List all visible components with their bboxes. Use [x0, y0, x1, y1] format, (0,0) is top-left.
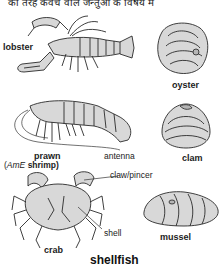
clam-label: clam	[182, 153, 203, 163]
shell-annotation: shell	[104, 228, 121, 238]
page-title: shellfish	[90, 253, 139, 267]
prawn-illustration	[8, 96, 143, 151]
oyster-label: oyster	[172, 80, 199, 90]
mussel-label: mussel	[160, 232, 191, 242]
lobster-label: lobster	[3, 42, 33, 52]
crab-label: crab	[44, 245, 63, 255]
mussel-illustration	[140, 186, 220, 230]
shell-leader-line	[76, 205, 106, 235]
oyster-illustration	[154, 20, 212, 78]
region-label: AmE	[7, 160, 25, 170]
header-partial-text: की तरह कवच वाले जन्तुओं के विषय में	[8, 0, 154, 9]
prawn-alt-label: (AmE shrimp)	[4, 160, 59, 170]
antenna-annotation: antenna	[104, 151, 135, 161]
clam-illustration	[156, 102, 214, 150]
claw-pincer-annotation: claw/pincer	[110, 170, 153, 180]
